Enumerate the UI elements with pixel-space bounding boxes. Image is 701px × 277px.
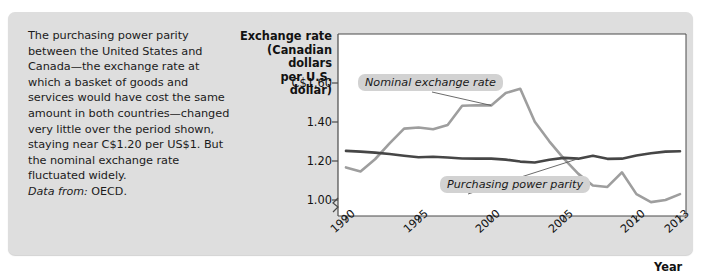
plot-canvas: [236, 20, 688, 248]
x-axis-title: Year: [654, 260, 682, 274]
source-line: Data from: OECD.: [28, 185, 233, 198]
series-callout-1: Purchasing power parity: [440, 176, 590, 193]
series-callout-0: Nominal exchange rate: [358, 74, 503, 91]
figure-panel: The purchasing power parity between the …: [8, 12, 693, 255]
source-value: OECD.: [91, 185, 127, 198]
source-label: Data from:: [28, 185, 88, 198]
caption-block: The purchasing power parity between the …: [28, 28, 233, 198]
chart-area: Exchange rate (Canadian dollars per U.S.…: [236, 20, 688, 248]
caption-text: The purchasing power parity between the …: [28, 28, 233, 184]
